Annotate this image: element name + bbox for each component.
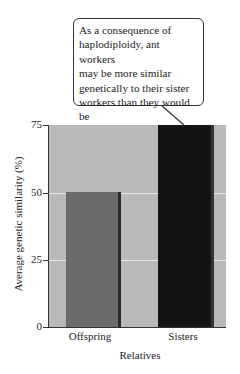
y-axis-line: [48, 125, 49, 328]
x-axis-line: [48, 327, 226, 328]
y-tick: [43, 327, 48, 328]
y-tick: [43, 125, 48, 126]
y-tick-label: 75: [12, 118, 42, 130]
x-category-label: Sisters: [148, 330, 218, 342]
y-tick-label: 0: [12, 320, 42, 332]
y-axis-title: Average genetic similarity (%): [12, 144, 24, 304]
y-tick: [43, 193, 48, 194]
x-axis-title: Relatives: [0, 349, 240, 361]
x-category-label: Offspring: [55, 330, 125, 342]
y-tick: [43, 260, 48, 261]
